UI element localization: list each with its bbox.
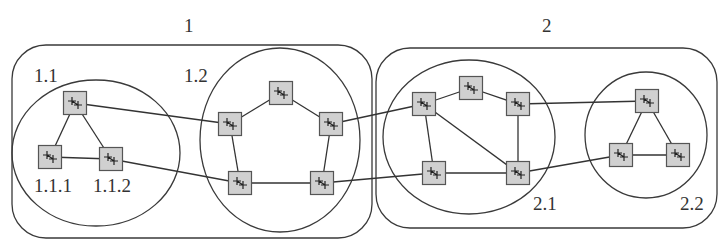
subdomain-ellipse-1-2 <box>200 48 360 232</box>
domain-boxes <box>12 45 717 238</box>
node-label-1-1-2: 1.1.2 <box>93 175 131 196</box>
router-node-i[interactable] <box>413 93 436 116</box>
subdomain-label-2-2: 2.2 <box>680 193 704 214</box>
subdomain-label-2-1: 2.1 <box>533 193 557 214</box>
subdomain-ellipses <box>12 48 707 232</box>
router-nodes <box>39 77 690 195</box>
link-k-n <box>518 101 647 104</box>
link-m-o <box>518 155 621 173</box>
router-node-h[interactable] <box>311 172 334 195</box>
router-node-a[interactable] <box>64 92 87 115</box>
subdomain-label-1-1: 1.1 <box>34 65 58 86</box>
link-h-l <box>322 173 434 183</box>
domain-label-1: 1 <box>184 15 194 36</box>
router-node-l[interactable] <box>423 162 446 185</box>
links <box>50 88 678 183</box>
router-node-d[interactable] <box>219 113 242 136</box>
router-node-o[interactable] <box>610 144 633 167</box>
router-node-m[interactable] <box>507 162 530 185</box>
node-label-1-1-1: 1.1.1 <box>34 175 72 196</box>
domain-label-2: 2 <box>542 15 552 36</box>
subdomain-ellipse-1-1 <box>12 80 180 226</box>
router-node-b[interactable] <box>39 146 62 169</box>
network-diagram: 1 2 1.1 1.2 2.1 2.2 1.1.1 1.1.2 <box>0 0 726 244</box>
link-f-i <box>331 104 424 124</box>
router-node-c[interactable] <box>100 148 123 171</box>
router-node-e[interactable] <box>270 82 293 105</box>
subdomain-label-1-2: 1.2 <box>184 65 208 86</box>
router-node-p[interactable] <box>667 144 690 167</box>
router-node-k[interactable] <box>507 93 530 116</box>
link-a-d <box>75 103 230 124</box>
router-node-g[interactable] <box>229 172 252 195</box>
router-node-f[interactable] <box>320 113 343 136</box>
router-node-j[interactable] <box>460 77 483 100</box>
router-node-n[interactable] <box>636 90 659 113</box>
